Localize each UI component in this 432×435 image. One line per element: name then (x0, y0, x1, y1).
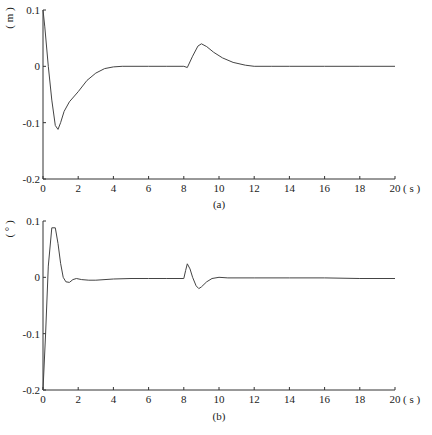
x-tick-label: 10 (214, 393, 226, 405)
y-tick-label: 0 (35, 60, 41, 72)
y-axis-unit-label: ( ° ) (3, 220, 16, 238)
panel-caption: (a) (213, 198, 226, 211)
x-tick-label: 4 (111, 393, 117, 405)
x-tick-label: 10 (214, 182, 226, 194)
x-tick-label: 16 (319, 393, 331, 405)
x-tick-label: 0 (40, 182, 46, 194)
y-tick-label: -0.1 (23, 328, 40, 340)
x-axis-unit-label: ( s ) (403, 182, 420, 195)
x-tick-label: 2 (75, 393, 81, 405)
line-chart-figure: 02468101214161820( s )0.10-0.1-0.2( m )(… (0, 0, 432, 435)
x-tick-label: 18 (354, 393, 366, 405)
axes-panel-a (43, 10, 395, 179)
panel-caption: (b) (213, 410, 226, 423)
x-tick-label: 20 (390, 182, 402, 194)
x-tick-label: 14 (284, 393, 296, 405)
y-tick-label: 0 (35, 271, 41, 283)
x-tick-label: 6 (146, 182, 152, 194)
x-tick-label: 6 (146, 393, 152, 405)
y-tick-label: -0.2 (23, 173, 40, 185)
series-line-angle (43, 228, 395, 390)
y-tick-label: -0.2 (23, 384, 40, 396)
x-tick-label: 8 (181, 182, 187, 194)
y-tick-label: 0.1 (26, 4, 40, 16)
figure: 02468101214161820( s )0.10-0.1-0.2( m )(… (0, 0, 432, 435)
x-tick-label: 12 (249, 182, 260, 194)
x-tick-label: 4 (111, 182, 117, 194)
x-tick-label: 12 (249, 393, 260, 405)
x-tick-label: 18 (354, 182, 366, 194)
x-tick-label: 8 (181, 393, 187, 405)
y-tick-label: -0.1 (23, 117, 40, 129)
series-line-displacement (43, 10, 395, 129)
x-tick-label: 20 (390, 393, 402, 405)
y-tick-label: 0.1 (26, 215, 40, 227)
x-tick-label: 16 (319, 182, 331, 194)
x-tick-label: 2 (75, 182, 81, 194)
x-axis-unit-label: ( s ) (403, 393, 420, 406)
y-axis-unit-label: ( m ) (3, 7, 16, 29)
axes-panel-b (43, 221, 395, 390)
x-tick-label: 14 (284, 182, 296, 194)
x-tick-label: 0 (40, 393, 46, 405)
